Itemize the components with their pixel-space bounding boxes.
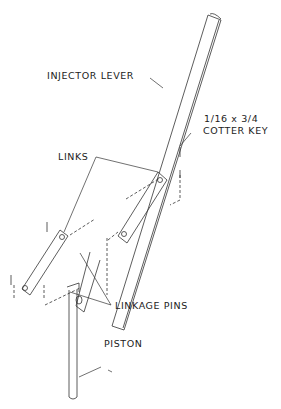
- pin-centerlines: [14, 175, 180, 305]
- label-cotter-key: COTTER KEY: [203, 125, 268, 136]
- label-cotter-key-size: 1/16 x 3/4: [204, 113, 258, 124]
- right-link-part: [118, 172, 167, 243]
- piston-part: [67, 283, 79, 399]
- label-injector-lever: INJECTOR LEVER: [47, 70, 134, 81]
- left-link-part: [22, 230, 68, 295]
- label-piston: PISTON: [104, 338, 143, 349]
- leader-lines: [64, 78, 191, 377]
- cotter-keys: [11, 147, 180, 285]
- label-links: LINKS: [58, 151, 88, 162]
- diagram-canvas: INJECTOR LEVER 1/16 x 3/4 COTTER KEY LIN…: [0, 0, 281, 409]
- label-linkage-pins: LINKAGE PINS: [115, 300, 188, 311]
